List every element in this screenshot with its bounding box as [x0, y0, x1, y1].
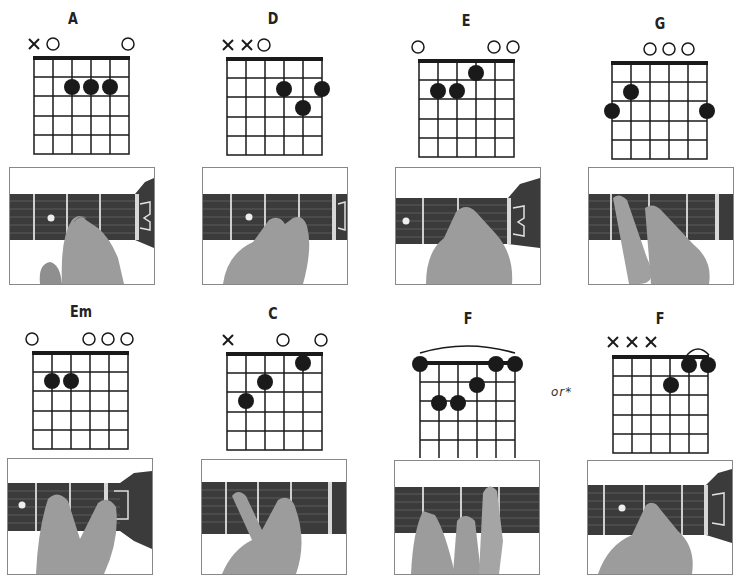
- hand-photo-g: [588, 167, 734, 285]
- nut: [611, 61, 708, 65]
- mute-icon: [29, 39, 39, 49]
- or-label: or*: [551, 385, 572, 399]
- fretboard-image: [202, 460, 346, 574]
- chord-grid: [598, 37, 723, 162]
- open-string-icon: [122, 38, 134, 50]
- nut: [612, 355, 709, 359]
- fretboard-image: [589, 168, 733, 284]
- mute-icon: [242, 40, 252, 50]
- hand-photo-d: [202, 167, 348, 285]
- chord-grid: [405, 35, 525, 160]
- chord-name: E: [425, 12, 507, 30]
- open-string-icon: [663, 43, 675, 55]
- mute-icon: [223, 335, 233, 345]
- fretboard-image: [10, 168, 154, 284]
- open-string-icon: [644, 43, 656, 55]
- barre-arc-icon: [687, 349, 709, 355]
- nut: [226, 352, 323, 356]
- hand-photo-f-alt: [587, 460, 733, 575]
- fretboard-image: [396, 168, 540, 284]
- open-string-icon: [26, 333, 38, 345]
- mute-icon: [223, 40, 233, 50]
- mute-icon: [646, 337, 656, 347]
- nut: [418, 59, 515, 63]
- open-string-icon: [121, 333, 133, 345]
- fretboard-image: [203, 168, 347, 284]
- open-string-icon: [47, 38, 59, 50]
- fretboard-image: [395, 461, 539, 574]
- chord-grid: [599, 333, 724, 458]
- open-string-icon: [682, 43, 694, 55]
- chord-name: Em: [40, 303, 122, 321]
- nut: [226, 57, 323, 61]
- chord-grid: [20, 33, 140, 158]
- chord-name: F: [427, 310, 509, 328]
- open-string-icon: [412, 41, 424, 53]
- chord-name: A: [32, 10, 114, 28]
- finger-dots: [238, 355, 311, 409]
- finger-dots: [44, 373, 79, 389]
- open-string-icon: [488, 41, 500, 53]
- finger-dots: [64, 79, 118, 95]
- open-string-icon: [315, 334, 327, 346]
- open-string-icon: [83, 333, 95, 345]
- chord-name: F: [619, 310, 701, 328]
- chord-grid: [19, 325, 144, 450]
- barre-arc-icon: [420, 346, 515, 353]
- chord-grid: [213, 33, 333, 158]
- nut: [32, 351, 129, 355]
- chord-name: G: [619, 15, 701, 33]
- mute-icon: [608, 337, 618, 347]
- hand-photo-e: [395, 167, 541, 285]
- hand-photo-a: [9, 167, 155, 285]
- hand-photo-c: [201, 459, 347, 575]
- nut: [33, 56, 130, 60]
- mute-icon: [627, 337, 637, 347]
- hand-photo-em: [7, 458, 153, 575]
- chord-grid: [406, 333, 531, 458]
- chord-name: C: [232, 305, 314, 323]
- hand-photo-f: [394, 460, 540, 575]
- chord-name: D: [232, 10, 314, 28]
- chord-grid: [213, 328, 338, 453]
- open-string-icon: [102, 333, 114, 345]
- open-string-icon: [258, 39, 270, 51]
- fretboard-image: [8, 459, 152, 574]
- open-string-icon: [507, 41, 519, 53]
- open-string-icon: [277, 334, 289, 346]
- fretboard-image: [588, 461, 732, 574]
